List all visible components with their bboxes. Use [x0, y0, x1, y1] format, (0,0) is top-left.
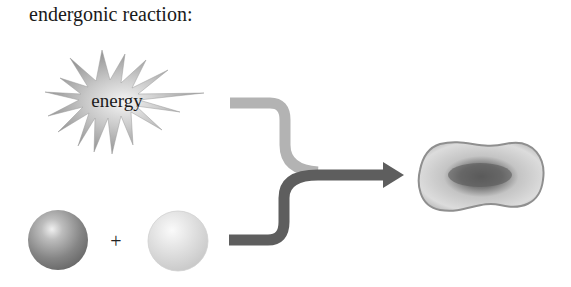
energy-label: energy: [91, 90, 143, 111]
input-arrow-energy: [230, 103, 318, 172]
reactant-sphere-light: [148, 211, 208, 271]
reactant-sphere-dark: [28, 210, 88, 270]
arrowhead-icon: [383, 162, 404, 188]
diagram-canvas: energy +: [0, 0, 571, 287]
product-molecule: [419, 142, 544, 210]
plus-sign: +: [110, 230, 121, 252]
input-arrow-reactants: [229, 175, 385, 240]
energy-burst-icon: energy: [45, 50, 204, 154]
